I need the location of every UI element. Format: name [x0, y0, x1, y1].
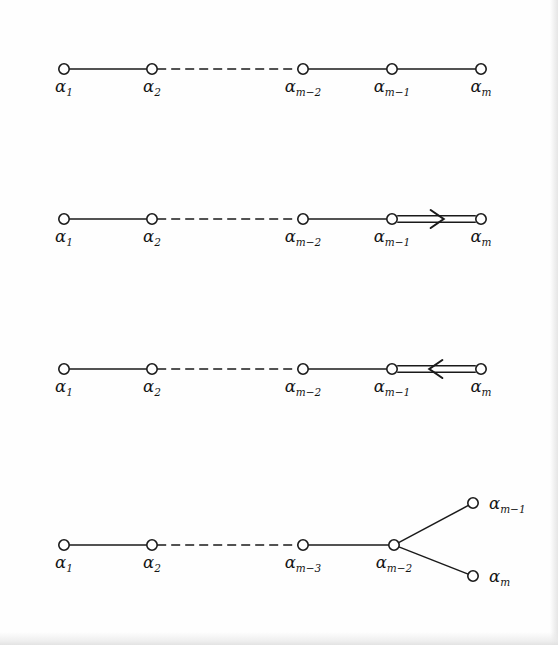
root-node-label: α2 [143, 553, 161, 574]
root-node-label: α1 [55, 227, 73, 248]
root-node-circle[interactable] [298, 364, 308, 374]
alpha-subscript: 1 [66, 562, 73, 574]
alpha-subscript: 1 [66, 386, 73, 398]
alpha-glyph: α [374, 377, 385, 396]
alpha-subscript: m−2 [296, 386, 322, 398]
alpha-glyph: α [143, 227, 154, 246]
root-node-label: α2 [143, 377, 161, 398]
root-node-label: αm [470, 227, 491, 248]
alpha-glyph: α [143, 553, 154, 572]
alpha-subscript: 2 [153, 386, 161, 398]
alpha-subscript: 2 [153, 236, 161, 248]
root-node-label: αm [470, 77, 491, 98]
root-node-label: αm−2 [285, 77, 322, 98]
alpha-glyph: α [489, 494, 500, 513]
alpha-subscript: m [482, 86, 492, 98]
alpha-subscript: m−2 [296, 86, 322, 98]
alpha-glyph: α [489, 567, 500, 586]
root-node-circle[interactable] [476, 214, 486, 224]
forked-chain-diagram: α1α2αm−3αm−2αm−1αm [55, 494, 526, 588]
diagram-page: α1α2αm−2αm−1αmα1α2αm−2αm−1αmα1α2αm−2αm−1… [0, 0, 558, 645]
root-node-label: α1 [55, 77, 73, 98]
root-node-circle[interactable] [147, 214, 157, 224]
alpha-subscript: m [482, 386, 492, 398]
root-node-label: αm [470, 377, 491, 398]
arrowhead-left-icon [429, 360, 442, 378]
root-node-label: αm−1 [489, 494, 526, 515]
root-node-circle[interactable] [298, 540, 308, 550]
alpha-glyph: α [374, 77, 385, 96]
root-node-circle[interactable] [387, 64, 397, 74]
root-node-circle[interactable] [59, 540, 69, 550]
alpha-glyph: α [55, 377, 66, 396]
alpha-glyph: α [374, 227, 385, 246]
alpha-subscript: m−2 [296, 236, 322, 248]
root-node-label: αm−2 [285, 227, 322, 248]
root-node-label: αm−1 [374, 377, 411, 398]
root-node-circle[interactable] [476, 64, 486, 74]
root-node-circle[interactable] [147, 364, 157, 374]
root-node-circle[interactable] [59, 64, 69, 74]
alpha-subscript: m−1 [500, 503, 525, 515]
alpha-subscript: 2 [153, 562, 161, 574]
alpha-subscript: m−1 [385, 86, 410, 98]
root-node-circle[interactable] [59, 214, 69, 224]
alpha-subscript: m [482, 236, 492, 248]
root-node-circle[interactable] [147, 64, 157, 74]
root-node-label: α2 [143, 227, 161, 248]
root-node-label: αm−1 [374, 77, 411, 98]
alpha-glyph: α [143, 77, 154, 96]
alpha-glyph: α [376, 553, 387, 572]
alpha-subscript: m−1 [385, 386, 410, 398]
alpha-subscript: m−2 [387, 562, 413, 574]
alpha-glyph: α [55, 553, 66, 572]
double-bond-arrow-left-diagram: α1α2αm−2αm−1αm [55, 360, 492, 398]
alpha-subscript: 1 [66, 236, 73, 248]
alpha-subscript: 1 [66, 86, 73, 98]
root-node-circle[interactable] [389, 540, 399, 550]
alpha-glyph: α [285, 553, 296, 572]
dynkin-diagram-canvas: α1α2αm−2αm−1αmα1α2αm−2αm−1αmα1α2αm−2αm−1… [0, 0, 558, 645]
alpha-subscript: 2 [153, 86, 161, 98]
root-node-circle[interactable] [387, 214, 397, 224]
alpha-glyph: α [285, 377, 296, 396]
alpha-glyph: α [470, 77, 481, 96]
alpha-glyph: α [55, 227, 66, 246]
root-node-circle[interactable] [147, 540, 157, 550]
root-node-label: α2 [143, 77, 161, 98]
arrowhead-right-icon [431, 210, 444, 228]
root-node-circle[interactable] [59, 364, 69, 374]
root-node-circle[interactable] [468, 498, 478, 508]
root-node-circle[interactable] [387, 364, 397, 374]
alpha-glyph: α [143, 377, 154, 396]
alpha-subscript: m [500, 576, 510, 588]
alpha-subscript: m−1 [385, 236, 410, 248]
alpha-glyph: α [55, 77, 66, 96]
root-node-label: αm−3 [285, 553, 322, 574]
alpha-glyph: α [285, 227, 296, 246]
alpha-subscript: m−3 [296, 562, 322, 574]
root-node-label: αm−1 [374, 227, 411, 248]
simple-chain-diagram: α1α2αm−2αm−1αm [55, 64, 492, 98]
root-node-label: α1 [55, 377, 73, 398]
root-node-circle[interactable] [298, 64, 308, 74]
alpha-glyph: α [470, 227, 481, 246]
edge-solid-line [399, 505, 469, 542]
root-node-label: αm−2 [376, 553, 413, 574]
root-node-circle[interactable] [298, 214, 308, 224]
alpha-glyph: α [470, 377, 481, 396]
double-bond-arrow-right-diagram: α1α2αm−2αm−1αm [55, 210, 492, 248]
alpha-glyph: α [285, 77, 296, 96]
root-node-label: αm−2 [285, 377, 322, 398]
root-node-circle[interactable] [468, 571, 478, 581]
root-node-label: αm [489, 567, 510, 588]
root-node-label: α1 [55, 553, 73, 574]
root-node-circle[interactable] [476, 364, 486, 374]
